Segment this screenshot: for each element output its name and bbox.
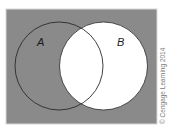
set-b-circle (60, 22, 148, 110)
venn-diagram: A B © Cengage Learning 2014 (0, 0, 172, 131)
copyright-credit: © Cengage Learning 2014 (159, 47, 167, 124)
set-a-label: A (36, 36, 44, 48)
set-b-label: B (117, 36, 124, 48)
